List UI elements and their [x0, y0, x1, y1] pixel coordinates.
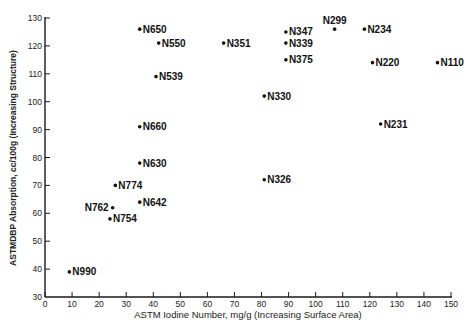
point-label: N774: [118, 180, 142, 191]
y-tick-label: 90: [33, 125, 43, 135]
y-tick-label: 80: [33, 153, 43, 163]
data-point: N234: [363, 24, 392, 35]
point-marker: [436, 61, 440, 65]
point-marker: [157, 41, 161, 45]
x-tick-label: 80: [257, 299, 267, 309]
data-point: N110: [436, 57, 465, 68]
point-label: N642: [143, 197, 167, 208]
point-marker: [284, 58, 288, 62]
x-tick-label: 40: [149, 299, 159, 309]
x-tick-label: 120: [363, 299, 377, 309]
y-tick-label: 50: [33, 236, 43, 246]
y-tick-label: 60: [33, 208, 43, 218]
point-label: N330: [267, 91, 291, 102]
point-label: N351: [227, 38, 251, 49]
x-tick-label: 140: [417, 299, 431, 309]
point-marker: [68, 270, 72, 274]
point-label: N754: [113, 213, 137, 224]
data-point: N660: [138, 121, 167, 132]
point-label: N990: [72, 266, 96, 277]
point-marker: [363, 27, 367, 31]
point-marker: [284, 30, 288, 34]
scatter-chart: 0102030405060708090100110120130140150304…: [0, 0, 476, 334]
y-tick-label: 100: [28, 97, 42, 107]
x-tick-label: 100: [309, 299, 323, 309]
point-label: N234: [367, 24, 391, 35]
y-tick-label: 110: [28, 69, 42, 79]
point-marker: [379, 122, 383, 126]
point-marker: [284, 41, 288, 45]
point-marker: [262, 178, 266, 182]
point-label: N660: [143, 121, 167, 132]
point-label: N326: [267, 174, 291, 185]
data-point: N220: [371, 57, 400, 68]
point-marker: [333, 27, 337, 31]
y-tick-label: 40: [33, 264, 43, 274]
x-tick-label: 30: [121, 299, 131, 309]
point-marker: [114, 184, 118, 188]
data-point: N326: [262, 174, 291, 185]
x-tick-label: 130: [390, 299, 404, 309]
point-label: N299: [323, 15, 347, 26]
data-point: N754: [108, 213, 137, 224]
point-marker: [154, 75, 158, 79]
point-marker: [138, 27, 142, 31]
y-tick-label: 30: [33, 292, 43, 302]
data-point: N347: [284, 26, 313, 37]
data-point: N630: [138, 158, 167, 169]
y-tick-label: 70: [33, 180, 43, 190]
x-tick-label: 20: [94, 299, 104, 309]
point-label: N630: [143, 158, 167, 169]
point-marker: [222, 41, 226, 45]
x-tick-label: 60: [203, 299, 213, 309]
point-label: N375: [289, 54, 313, 65]
x-tick-label: 50: [176, 299, 186, 309]
data-point: N642: [138, 197, 167, 208]
x-tick-label: 0: [43, 299, 48, 309]
point-label: N220: [376, 57, 400, 68]
point-label: N339: [289, 38, 313, 49]
point-label: N110: [440, 57, 464, 68]
data-point: N351: [222, 38, 251, 49]
x-axis-title: ASTM Iodine Number, mg/g (Increasing Sur…: [45, 309, 451, 320]
data-point: N762: [85, 202, 115, 213]
x-tick-label: 70: [230, 299, 240, 309]
data-point: N774: [114, 180, 143, 191]
data-point: N539: [154, 71, 183, 82]
x-tick-label: 150: [444, 299, 458, 309]
data-point: N231: [379, 119, 408, 130]
y-tick-label: 120: [28, 41, 42, 51]
point-label: N550: [162, 38, 186, 49]
x-tick-label: 10: [67, 299, 77, 309]
point-marker: [138, 125, 142, 129]
point-marker: [262, 94, 266, 98]
data-point: N550: [157, 38, 186, 49]
point-label: N231: [384, 119, 408, 130]
point-label: N650: [143, 24, 167, 35]
data-point: N650: [138, 24, 167, 35]
point-marker: [138, 161, 142, 165]
y-tick-label: 130: [28, 13, 42, 23]
data-point: N330: [262, 91, 291, 102]
data-points: N650N550N539N351N347N339N375N299N234N220…: [68, 15, 465, 277]
data-point: N375: [284, 54, 313, 65]
data-point: N990: [68, 266, 97, 277]
point-label: N762: [85, 202, 109, 213]
point-marker: [111, 206, 115, 210]
x-tick-label: 90: [284, 299, 294, 309]
data-point: N299: [323, 15, 347, 31]
point-marker: [371, 61, 375, 65]
point-marker: [138, 200, 142, 204]
data-point: N339: [284, 38, 313, 49]
point-label: N539: [159, 71, 183, 82]
point-marker: [108, 217, 112, 221]
point-label: N347: [289, 26, 313, 37]
x-tick-label: 110: [336, 299, 350, 309]
